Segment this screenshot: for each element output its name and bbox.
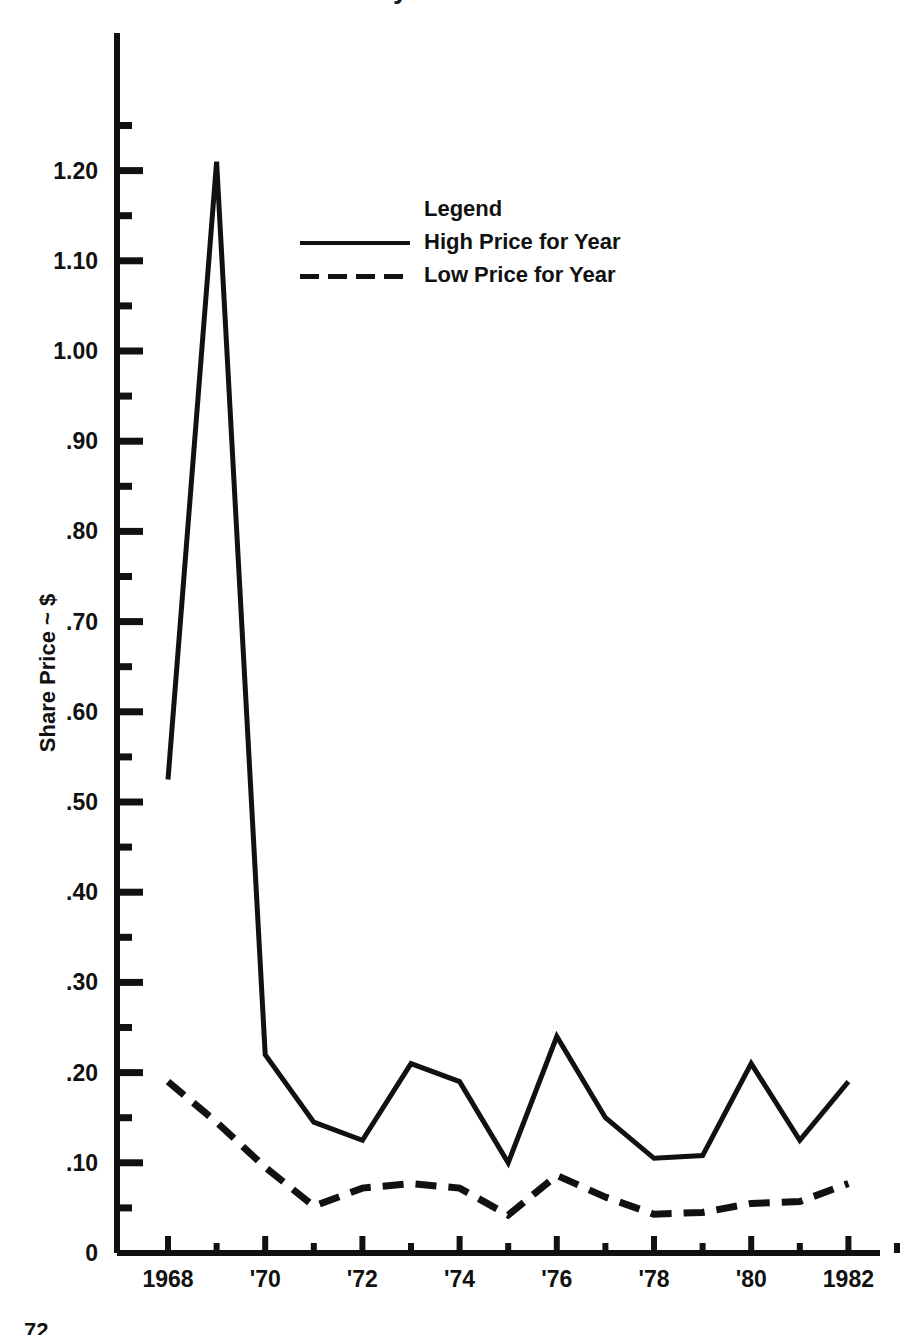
data-series-layer xyxy=(168,162,848,1216)
y-tick-label: .10 xyxy=(28,1149,98,1176)
chart-figure: Share Price History Share Price ~ $ 1.20… xyxy=(0,0,911,1335)
y-tick-label: .70 xyxy=(28,608,98,635)
y-tick-label: .40 xyxy=(28,879,98,906)
legend-line-dashed-icon xyxy=(300,267,410,283)
y-tick-label-zero: 0 xyxy=(28,1240,98,1267)
y-tick-label: .30 xyxy=(28,969,98,996)
legend-title: Legend xyxy=(424,198,502,220)
y-tick-label: .80 xyxy=(28,518,98,545)
y-tick-label: 1.20 xyxy=(28,157,98,184)
y-tick-label: 1.00 xyxy=(28,338,98,365)
legend-label-high: High Price for Year xyxy=(424,231,620,253)
page-number: 72 xyxy=(24,1320,48,1335)
legend-entry-low: Low Price for Year xyxy=(300,258,640,291)
series-line-low xyxy=(168,1082,848,1216)
legend-entry-high: High Price for Year xyxy=(300,225,640,258)
legend-title-row: Legend xyxy=(300,192,640,225)
series-line-high xyxy=(168,162,848,1163)
y-tick-label: .90 xyxy=(28,428,98,455)
legend: Legend High Price for Year Low Price for… xyxy=(300,192,640,291)
x-tick-label: 1982 xyxy=(788,1266,908,1293)
y-tick-label: .60 xyxy=(28,698,98,725)
y-tick-label: .20 xyxy=(28,1059,98,1086)
legend-line-solid-icon xyxy=(300,234,410,250)
y-tick-label: 1.10 xyxy=(28,247,98,274)
y-tick-label: .50 xyxy=(28,789,98,816)
y-axis-tick-labels: 1.201.101.00.90.80.70.60.50.40.30.20.100 xyxy=(28,0,98,1335)
legend-label-low: Low Price for Year xyxy=(424,264,616,286)
